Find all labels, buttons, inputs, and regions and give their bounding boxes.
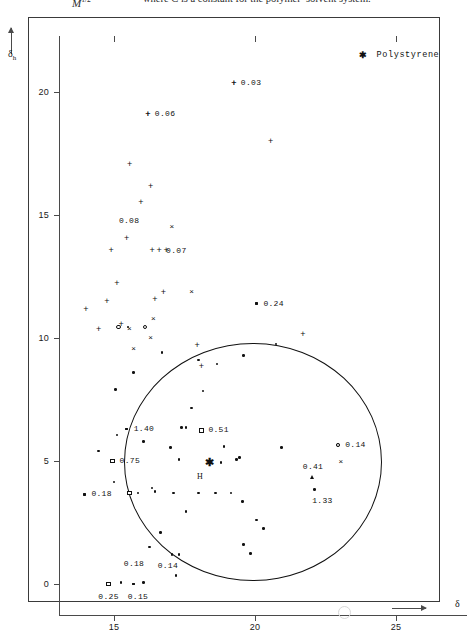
- top-tick-20: [255, 36, 256, 42]
- header-sentence: where C is a constant for the polymer–so…: [143, 0, 371, 4]
- point-label: 0.08: [119, 216, 139, 225]
- annotated-point-dot: [313, 488, 316, 491]
- plot-frame: ✱ Polystyrene 0 5 10 15 20 15 20 25: [28, 17, 440, 602]
- annotated-point-plus: +: [157, 246, 162, 255]
- data-point-plus: +: [161, 288, 166, 297]
- data-point-dot: [241, 500, 244, 503]
- data-point-dot: [235, 458, 238, 461]
- annotated-point-square: [106, 582, 111, 587]
- data-point-dot: [185, 510, 188, 513]
- x-tick-label-20: 20: [243, 622, 267, 632]
- y-axis-line: [59, 36, 60, 616]
- data-point-dot: [175, 574, 178, 577]
- point-label: 0.07: [166, 246, 186, 255]
- x-axis-title: δ: [455, 598, 460, 609]
- data-point-plus: +: [83, 305, 88, 314]
- solubility-circle: [124, 343, 382, 581]
- y-tick-label-15: 15: [27, 210, 49, 220]
- point-label: 0.41: [303, 462, 323, 471]
- data-point-dot: [169, 446, 172, 449]
- data-point-dot: [114, 388, 117, 391]
- point-label: 0.06: [155, 109, 175, 118]
- data-point-dot: [242, 354, 245, 357]
- point-label: 0.75: [120, 456, 140, 465]
- annotated-point-dot: [83, 493, 86, 496]
- running-header: M1/2 where C is a constant for the polym…: [0, 0, 470, 13]
- annotated-point-dot: [255, 302, 258, 305]
- y-tick-15: [54, 215, 60, 216]
- data-point-dot: [249, 552, 252, 555]
- top-tick-25: [396, 36, 397, 42]
- y-tick-10: [54, 338, 60, 339]
- x-tick-25: [396, 615, 397, 621]
- data-point-plus: +: [124, 234, 129, 243]
- data-point-plus: +: [148, 182, 153, 191]
- data-point-dot: [113, 481, 116, 484]
- data-point-dot: [223, 445, 226, 448]
- point-label: 1.33: [312, 496, 332, 505]
- x-tick-label-15: 15: [102, 622, 126, 632]
- annotated-point-square: [110, 459, 115, 464]
- point-label: 1.40: [134, 424, 154, 433]
- data-point-plus: +: [114, 279, 119, 288]
- data-point-square: [127, 491, 132, 496]
- data-point-dot: [242, 543, 245, 546]
- data-point-cross: ×: [151, 315, 156, 323]
- data-point-cross: ×: [189, 288, 194, 296]
- data-point-dot: [178, 553, 181, 556]
- point-label: 0.25: [98, 592, 118, 601]
- data-point-plus: +: [195, 341, 200, 350]
- data-point-plus: +: [96, 325, 101, 334]
- y-tick-label-20: 20: [27, 87, 49, 97]
- point-label: 0.15: [128, 592, 148, 601]
- page-artifact: [338, 606, 351, 619]
- data-point-cross: ×: [148, 334, 153, 342]
- point-label: 0.24: [263, 299, 283, 308]
- point-marker-h: H: [197, 473, 203, 481]
- data-point-dot: [116, 434, 119, 437]
- data-point-plus: +: [109, 246, 114, 255]
- data-point-plus: +: [300, 330, 305, 339]
- x-axis-arrow: [392, 608, 426, 609]
- data-point-triangle: [310, 475, 314, 479]
- x-tick-20: [255, 615, 256, 621]
- data-point-star: ✱: [205, 457, 214, 468]
- data-point-dot: [161, 351, 164, 354]
- data-point-dot: [172, 492, 175, 495]
- data-point-dot: [97, 450, 100, 453]
- data-point-plus: +: [104, 297, 109, 306]
- data-point-circle: [116, 325, 121, 330]
- data-point-dot: [142, 581, 145, 584]
- y-tick-5: [54, 461, 60, 462]
- point-label: 0.03: [241, 78, 261, 87]
- top-tick-15: [114, 36, 115, 42]
- annotated-point-plus: +: [145, 110, 150, 119]
- data-point-plus: +: [149, 246, 154, 255]
- y-axis-title: δh: [8, 48, 16, 62]
- data-point-plus: +: [199, 362, 204, 371]
- data-point-dot: [214, 492, 217, 495]
- data-point-dot: [142, 440, 145, 443]
- data-point-dot: [132, 371, 135, 374]
- annotated-point-dot: [132, 583, 135, 586]
- data-point-cross: ×: [169, 223, 174, 231]
- legend-star-icon: ✱: [359, 51, 368, 60]
- y-tick-label-10: 10: [27, 333, 49, 343]
- data-point-dot: [159, 531, 162, 534]
- point-label: 0.51: [208, 425, 228, 434]
- data-point-dot: [120, 581, 123, 584]
- point-label: 0.18: [91, 489, 111, 498]
- data-point-plus: +: [152, 295, 157, 304]
- legend-label: Polystyrene: [377, 50, 440, 60]
- y-tick-label-0: 0: [27, 579, 49, 589]
- data-point-dot: [148, 546, 151, 549]
- point-label: 0.18: [124, 559, 144, 568]
- x-tick-15: [114, 615, 115, 621]
- data-point-dot: [262, 527, 265, 530]
- point-label: 0.14: [158, 561, 178, 570]
- data-point-dot: [171, 553, 174, 556]
- header-formula: M1/2: [72, 0, 91, 9]
- y-tick-label-5: 5: [27, 456, 49, 466]
- x-tick-label-25: 25: [384, 622, 408, 632]
- data-point-circle: [143, 325, 148, 330]
